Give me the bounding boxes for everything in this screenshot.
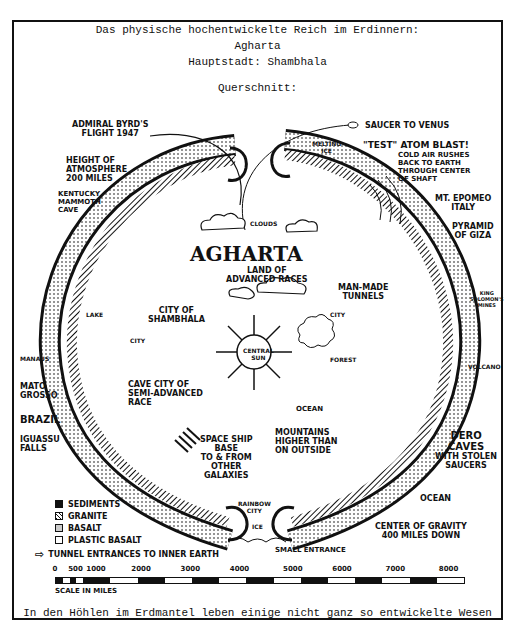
label-atmosphere: HEIGHT OF ATMOSPHERE 200 MILES — [66, 156, 127, 183]
agharta-subtitle: LAND OF ADVANCED RACES — [226, 266, 308, 284]
legend-item-granite: GRANITE — [55, 510, 219, 522]
legend-label: PLASTIC BASALT — [68, 536, 141, 545]
scale-bar: 0 500 1000 2000 3000 4000 5000 6000 7000… — [55, 565, 465, 595]
label-rainbow-city: RAINBOW CITY — [238, 500, 271, 514]
label-forest: FOREST — [330, 355, 356, 364]
label-spaceship-base: SPACE SHIP BASE TO & FROM OTHER GALAXIES — [200, 435, 253, 480]
scale-tick: 7000 — [386, 565, 405, 573]
footer-caption: In den Höhlen im Erdmantel leben einige … — [0, 607, 515, 619]
label-atom-blast: "TEST" ATOM BLAST! — [363, 141, 469, 150]
agharta-title: AGHARTA — [190, 243, 303, 265]
scale-caption: SCALE IN MILES — [55, 587, 465, 595]
label-saucer-venus: SAUCER TO VENUS — [365, 121, 449, 130]
scale-ticks: 0 500 1000 2000 3000 4000 5000 6000 7000… — [55, 565, 465, 575]
label-central-sun: CENTRAL SUN — [243, 347, 274, 361]
label-pyramid-giza: PYRAMID OF GIZA — [452, 222, 494, 240]
label-iguassu-falls: IGUASSU FALLS — [20, 435, 60, 453]
arrow-right-icon: ⇨ — [35, 548, 44, 561]
label-clouds: CLOUDS — [250, 219, 277, 228]
legend-label: BASALT — [68, 524, 101, 533]
scale-tick: 2000 — [131, 565, 150, 573]
label-lake: LAKE — [86, 310, 103, 319]
scale-tick: 8000 — [439, 565, 458, 573]
label-man-made-tunnels: MAN-MADE TUNNELS — [338, 283, 388, 301]
scale-tick: 3000 — [181, 565, 200, 573]
saucer-icon — [348, 122, 358, 128]
label-mountains: MOUNTAINS HIGHER THAN ON OUTSIDE — [275, 428, 337, 455]
label-dero-caves: DERO CAVES — [448, 430, 484, 452]
scale-tick: 500 — [68, 565, 83, 573]
basalt-swatch — [55, 524, 63, 532]
scale-bar-graphic — [55, 577, 465, 584]
legend-item-tunnel: ⇨ TUNNEL ENTRANCES TO INNER EARTH — [35, 548, 219, 560]
plastic-basalt-swatch — [55, 536, 63, 544]
label-ocean-inner: OCEAN — [296, 405, 323, 414]
granite-swatch — [55, 512, 63, 520]
legend: SEDIMENTS GRANITE BASALT PLASTIC BASALT … — [55, 498, 219, 560]
label-small-entrance: SMALL ENTRANCE — [275, 546, 346, 555]
label-manaus: MANAUS — [20, 354, 49, 363]
label-shambhala: CITY OF SHAMBHALA — [148, 306, 205, 324]
scale-tick: 1000 — [86, 565, 105, 573]
label-mato-grosso: MATO GROSSO — [20, 382, 58, 400]
label-city-left: CITY — [130, 336, 145, 345]
sediments-swatch — [55, 500, 63, 508]
label-cold-air: COLD AIR RUSHES BACK TO EARTH THROUGH CE… — [398, 151, 470, 183]
scale-tick: 6000 — [332, 565, 351, 573]
label-stolen-saucers: WITH STOLEN SAUCERS — [435, 452, 497, 470]
label-melting-ice: MELTING ICE — [312, 140, 341, 154]
scale-tick: 0 — [53, 565, 58, 573]
label-mt-epomeo: MT. EPOMEO ITALY — [435, 194, 491, 212]
label-kentucky-cave: KENTUCKY MAMMOTH CAVE — [58, 190, 101, 214]
label-center-gravity: CENTER OF GRAVITY 400 MILES DOWN — [375, 522, 467, 540]
label-volcano: VOLCANO — [468, 362, 501, 371]
label-cave-city: CAVE CITY OF SEMI-ADVANCED RACE — [128, 380, 203, 407]
legend-label: TUNNEL ENTRANCES TO INNER EARTH — [48, 550, 219, 559]
forest-icon — [298, 314, 335, 347]
spaceship-base-icon — [175, 428, 200, 452]
label-ocean-outer: OCEAN — [420, 494, 451, 503]
scale-tick: 5000 — [283, 565, 302, 573]
legend-item-sediments: SEDIMENTS — [55, 498, 219, 510]
label-city-right: CITY — [330, 310, 345, 319]
label-solomon-mines: KING SOLOMON'S MINES — [470, 290, 504, 308]
legend-label: SEDIMENTS — [68, 500, 120, 509]
legend-item-plastic-basalt: PLASTIC BASALT — [55, 534, 219, 546]
label-ice: ICE — [252, 522, 263, 531]
legend-item-basalt: BASALT — [55, 522, 219, 534]
label-byrd-flight: ADMIRAL BYRD'S FLIGHT 1947 — [72, 120, 148, 138]
scale-tick: 4000 — [230, 565, 249, 573]
label-brazil: BRAZIL — [20, 414, 60, 425]
legend-label: GRANITE — [68, 512, 108, 521]
